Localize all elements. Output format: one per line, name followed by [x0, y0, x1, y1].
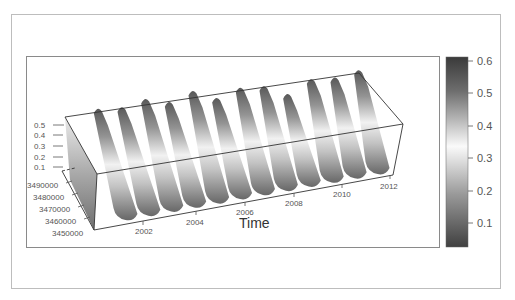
svg-text:3480000: 3480000	[33, 193, 65, 202]
svg-text:2002: 2002	[135, 227, 153, 236]
svg-text:0.3: 0.3	[34, 142, 46, 151]
x-axis-title: Time	[239, 215, 270, 231]
surface-chart: 0.5 0.4 0.3 0.2 0.1 3490000 3480000 3470…	[0, 0, 515, 300]
colorbar: 0.6 0.5 0.4 0.3 0.2 0.1	[446, 55, 492, 247]
svg-text:3460000: 3460000	[45, 217, 77, 226]
z-axis	[53, 125, 64, 167]
svg-text:2010: 2010	[333, 190, 351, 199]
colorbar-label: 0.5	[477, 87, 492, 99]
colorbar-label: 0.1	[477, 217, 492, 229]
colorbar-label: 0.2	[477, 185, 492, 197]
z-tick-labels: 0.5 0.4 0.3 0.2 0.1	[34, 121, 46, 172]
svg-text:2008: 2008	[285, 199, 303, 208]
svg-text:3450000: 3450000	[52, 229, 84, 238]
colorbar-label: 0.3	[477, 152, 492, 164]
svg-text:3470000: 3470000	[39, 205, 71, 214]
svg-text:2012: 2012	[380, 182, 398, 191]
svg-text:0.1: 0.1	[34, 163, 46, 172]
svg-text:0.5: 0.5	[34, 121, 46, 130]
svg-text:0.2: 0.2	[34, 153, 46, 162]
colorbar-label: 0.6	[477, 55, 492, 67]
svg-text:0.4: 0.4	[34, 131, 46, 140]
svg-text:3490000: 3490000	[27, 181, 59, 190]
svg-text:2004: 2004	[186, 218, 204, 227]
colorbar-label: 0.4	[477, 120, 492, 132]
